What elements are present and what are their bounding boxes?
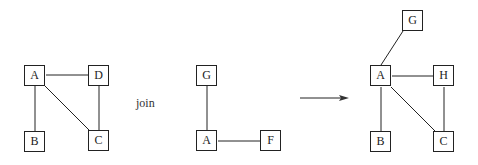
- node-label: C: [94, 133, 102, 148]
- edge-A-C: [45, 86, 90, 131]
- edge-G-A-right: [381, 31, 403, 65]
- middle-node-A: A: [196, 130, 217, 151]
- node-label: F: [267, 133, 274, 148]
- middle-node-F: F: [260, 130, 281, 151]
- node-label: C: [439, 134, 447, 149]
- right-node-H: H: [433, 65, 454, 86]
- node-label: H: [439, 68, 448, 83]
- right-node-A: A: [370, 65, 391, 86]
- left-node-A: A: [24, 65, 45, 86]
- left-node-B: B: [24, 131, 45, 152]
- right-node-C: C: [433, 131, 454, 152]
- left-node-C: C: [88, 130, 109, 151]
- middle-node-G: G: [196, 65, 217, 86]
- node-label: B: [30, 134, 38, 149]
- node-label: G: [202, 68, 211, 83]
- edge-A-C-right: [391, 87, 435, 131]
- right-node-G: G: [402, 10, 423, 31]
- node-label: A: [202, 133, 211, 148]
- node-label: G: [408, 13, 417, 28]
- node-label: B: [376, 134, 384, 149]
- right-node-B: B: [370, 131, 391, 152]
- node-label: D: [94, 68, 103, 83]
- left-node-D: D: [88, 65, 109, 86]
- join-label: join: [136, 96, 155, 111]
- node-label: A: [376, 68, 385, 83]
- node-label: A: [30, 68, 39, 83]
